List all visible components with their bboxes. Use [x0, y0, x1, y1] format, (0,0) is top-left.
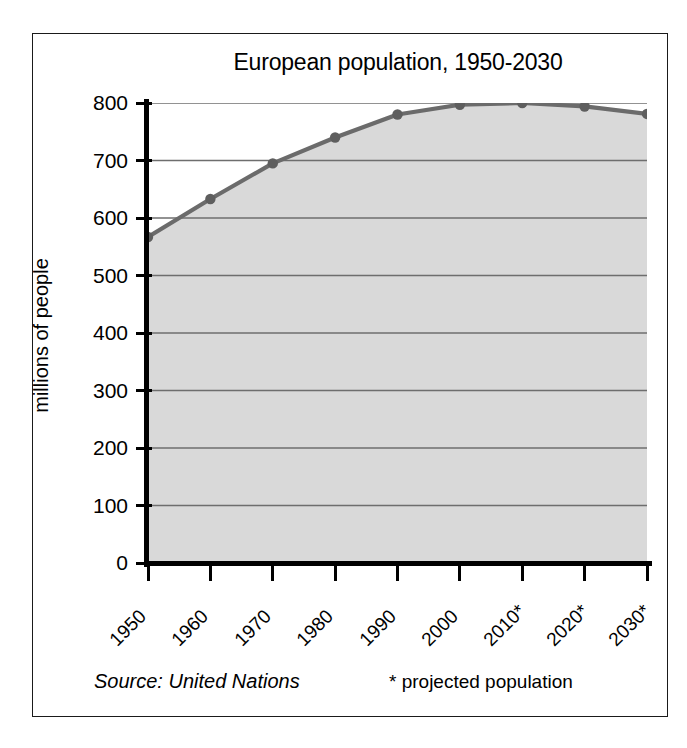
- x-tick-mark: [147, 565, 150, 581]
- chart-page: European population, 1950-2030 millions …: [0, 0, 687, 748]
- y-tick-mark: [136, 217, 152, 220]
- source-note: Source: United Nations: [94, 670, 300, 693]
- y-tick-mark: [136, 332, 152, 335]
- y-tick-label: 100: [58, 495, 128, 516]
- y-tick-label: 400: [58, 322, 128, 343]
- x-tick-mark: [396, 565, 399, 581]
- y-tick-mark: [136, 159, 152, 162]
- chart-title: European population, 1950-2030: [148, 49, 648, 76]
- x-tick-mark: [458, 565, 461, 581]
- y-tick-label: 500: [58, 265, 128, 286]
- y-tick-mark: [136, 102, 152, 105]
- y-tick-label: 300: [58, 380, 128, 401]
- y-tick-label: 700: [58, 150, 128, 171]
- x-tick-mark: [209, 565, 212, 581]
- y-tick-mark: [136, 447, 152, 450]
- x-tick-mark: [271, 565, 274, 581]
- y-tick-label: 200: [58, 437, 128, 458]
- y-tick-mark: [136, 562, 152, 565]
- y-tick-label: 800: [58, 92, 128, 113]
- x-tick-mark: [521, 565, 524, 581]
- y-tick-label: 600: [58, 207, 128, 228]
- y-tick-mark: [136, 389, 152, 392]
- x-tick-mark: [646, 565, 649, 581]
- y-tick-mark: [136, 274, 152, 277]
- x-tick-mark: [334, 565, 337, 581]
- plot-area: [148, 103, 647, 563]
- population-area-series: [148, 103, 647, 563]
- y-tick-label: 0: [58, 552, 128, 573]
- y-tick-mark: [136, 504, 152, 507]
- y-axis-title: millions of people: [30, 246, 53, 426]
- projection-note: * projected population: [389, 671, 573, 693]
- x-tick-mark: [583, 565, 586, 581]
